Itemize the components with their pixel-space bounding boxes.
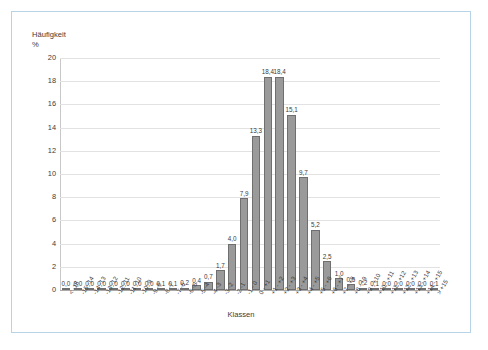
y-axis-tick-label: 18 [16,76,56,85]
bar [252,136,261,290]
x-axis-title: Klassen [12,310,470,319]
bar-value-label: 2,5 [317,253,337,260]
bar-value-label: 18,4 [269,68,289,75]
chart-frame: Häufigkeit % 02468101214161820 0,00,00,0… [11,11,471,333]
y-axis-tick-label: 20 [16,53,56,62]
bar [299,177,308,290]
y-axis-tick-label: 10 [16,169,56,178]
y-axis-tick-label: 8 [16,192,56,201]
y-axis-tick-label: 16 [16,99,56,108]
bar [240,198,249,290]
y-axis-tick-label: 6 [16,215,56,224]
y-axis-tick-label: 14 [16,123,56,132]
y-axis-tick-label: 12 [16,146,56,155]
y-axis-tick-label: 2 [16,262,56,271]
bar [264,77,273,290]
bar [287,115,296,290]
chart-area: Häufigkeit % 02468101214161820 0,00,00,0… [12,12,470,332]
bar-value-label: 15,1 [281,106,301,113]
y-axis-tick-labels: 02468101214161820 [12,58,56,298]
y-axis-tick-label: 0 [16,285,56,294]
bar-series: 0,00,00,00,00,00,00,00,00,10,10,20,40,71… [60,58,440,290]
y-axis-tick-label: 4 [16,239,56,248]
bar-value-label: 9,7 [293,169,313,176]
y-axis-title: Häufigkeit % [32,30,66,50]
plot-region: 0,00,00,00,00,00,00,00,00,10,10,20,40,71… [60,58,440,290]
bar-value-label: 5,2 [305,221,325,228]
